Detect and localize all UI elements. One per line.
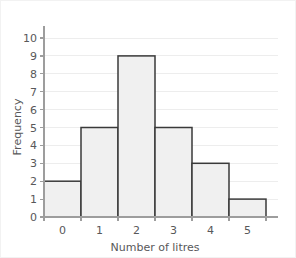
y-tick-label: 1	[30, 193, 37, 206]
x-tick-labels-group: 012345	[59, 224, 251, 237]
histogram-bar	[118, 56, 155, 217]
histogram-bar	[155, 128, 192, 218]
y-tick-label: 10	[23, 32, 37, 45]
y-tick-label: 0	[30, 211, 37, 224]
y-tick-label: 2	[30, 175, 37, 188]
bars-group	[44, 56, 266, 217]
y-tick-label: 8	[30, 68, 37, 81]
x-tick-label: 3	[170, 224, 177, 237]
x-tick-label: 4	[207, 224, 214, 237]
x-axis-title: Number of litres	[111, 241, 200, 254]
y-tick-label: 7	[30, 86, 37, 99]
histogram-bar	[229, 199, 266, 217]
histogram-bar	[81, 128, 118, 218]
y-tick-label: 4	[30, 139, 37, 152]
y-tick-labels-group: 012345678910	[23, 32, 37, 224]
x-tick-label: 1	[96, 224, 103, 237]
y-tick-label: 3	[30, 157, 37, 170]
histogram-figure: 012345678910 012345 Number of litres Fre…	[0, 0, 296, 258]
x-tick-label: 0	[59, 224, 66, 237]
y-tick-label: 6	[30, 104, 37, 117]
histogram-bar	[192, 163, 229, 217]
chart-canvas: 012345678910 012345 Number of litres Fre…	[1, 1, 296, 258]
histogram-bar	[44, 181, 81, 217]
y-tick-label: 9	[30, 50, 37, 63]
y-tick-label: 5	[30, 122, 37, 135]
x-tick-label: 2	[133, 224, 140, 237]
x-tick-label: 5	[244, 224, 251, 237]
y-axis-title: Frequency	[11, 98, 24, 155]
